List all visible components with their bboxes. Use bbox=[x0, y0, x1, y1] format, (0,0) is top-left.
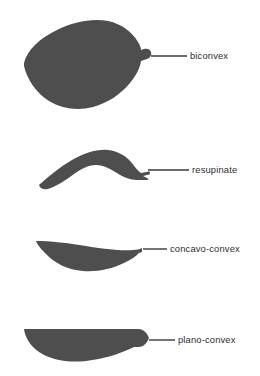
label-concavo-convex: concavo-convex bbox=[170, 244, 240, 253]
concavo-convex-shell-shape bbox=[36, 241, 142, 271]
shell-profile-figure: biconvex resupinate concavo-convex plano… bbox=[0, 0, 260, 376]
label-biconvex: biconvex bbox=[190, 51, 228, 60]
label-plano-convex: plano-convex bbox=[178, 335, 236, 344]
plano-convex-shell-shape bbox=[24, 329, 149, 362]
label-resupinate: resupinate bbox=[192, 165, 237, 174]
biconvex-shell-shape bbox=[24, 20, 151, 109]
resupinate-shell-shape bbox=[39, 150, 150, 190]
